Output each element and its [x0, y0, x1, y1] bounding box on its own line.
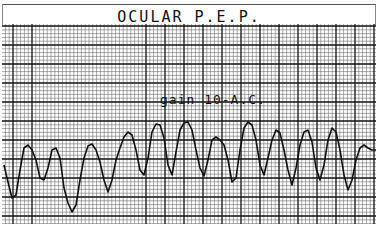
waveform-trace	[4, 122, 376, 212]
grid-plot	[2, 24, 376, 224]
chart-recorder-strip: OCULAR P.E.P. gain 10-A.C.	[0, 0, 380, 227]
gain-annotation: gain 10-A.C.	[160, 92, 266, 107]
title-box: OCULAR P.E.P.	[2, 4, 376, 25]
